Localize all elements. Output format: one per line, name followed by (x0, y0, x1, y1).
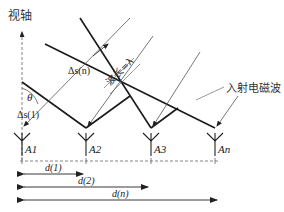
antenna-A3-label: A3 (153, 143, 167, 155)
antenna-An-label: An (217, 143, 231, 155)
distance-d2-label: d(2) (78, 175, 95, 187)
distance-dn-label: d(n) (112, 188, 129, 200)
delta-s-1-label: Δs(1) (17, 109, 39, 121)
distance-d1-label: d(1) (45, 162, 62, 174)
antenna-A2-label: A2 (88, 143, 102, 155)
wave-label-leader (196, 87, 224, 100)
delta-s-n-arrow (93, 44, 108, 56)
theta-label: θ (27, 91, 33, 103)
antenna-A1-label: A1 (24, 143, 37, 155)
boresight-label: 视轴 (8, 8, 32, 23)
incident-wave-label: 入射电磁波 (226, 81, 281, 95)
incident-rays (24, 18, 238, 126)
delta-s-n-label: Δs(n) (68, 65, 90, 77)
phased-array-diagram: 视轴 入射电磁波 波长=λ θ Δs(1) Δs(n) A1 A2 A3 An … (0, 0, 284, 212)
